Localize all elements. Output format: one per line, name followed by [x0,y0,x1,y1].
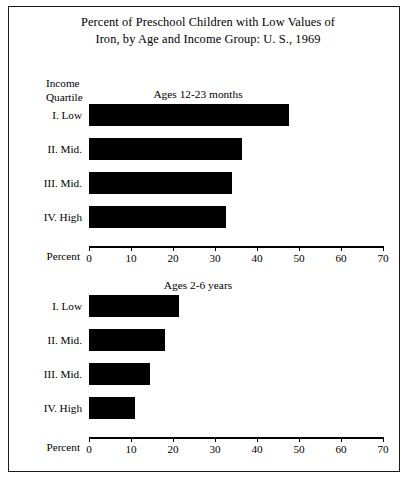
x-axis-tick-label: 50 [284,443,314,455]
x-axis-tick-label: 30 [200,252,230,264]
x-axis-tick [257,437,258,442]
bar [89,172,232,194]
x-axis-tick [383,437,384,442]
bar-row: I. Low [0,295,392,317]
bar [89,206,226,228]
bar-row: IV. High [0,206,392,228]
x-axis-tick-label: 40 [242,252,272,264]
bar [89,363,150,385]
chart-subtitle: Ages 12-23 months [88,88,308,100]
income-quartile-header-line-1: Income [46,76,83,90]
x-axis-title: Percent [0,441,80,453]
x-axis-line: 010203040506070 [89,437,383,439]
x-axis-tick-label: 70 [368,252,398,264]
x-axis-tick [131,437,132,442]
x-axis-tick [341,246,342,251]
x-axis-tick [383,246,384,251]
x-axis-tick [215,246,216,251]
figure-title: Percent of Preschool Children with Low V… [0,14,416,48]
bar-row: I. Low [0,104,392,126]
x-axis-tick [131,246,132,251]
bar-category-label: III. Mid. [0,368,82,380]
x-axis-tick-label: 70 [368,443,398,455]
bar [89,329,165,351]
x-axis-tick-label: 40 [242,443,272,455]
x-axis-tick-label: 20 [158,252,188,264]
chart-subtitle: Ages 2-6 years [88,279,308,291]
x-axis-tick-label: 30 [200,443,230,455]
x-axis-tick [299,437,300,442]
x-axis-tick-label: 20 [158,443,188,455]
bar-category-label: III. Mid. [0,177,82,189]
x-axis-tick-label: 50 [284,252,314,264]
bar [89,295,179,317]
bar-category-label: IV. High [0,402,82,414]
bar-row: II. Mid. [0,138,392,160]
x-axis-tick-label: 60 [326,443,356,455]
x-axis-title: Percent [0,250,80,262]
bar [89,104,289,126]
x-axis-tick [89,246,90,251]
x-axis-tick [173,246,174,251]
bar-category-label: I. Low [0,109,82,121]
x-axis-tick [257,246,258,251]
x-axis-tick [215,437,216,442]
x-axis-tick-label: 10 [116,252,146,264]
bar-category-label: IV. High [0,211,82,223]
x-axis-tick-label: 60 [326,252,356,264]
bar-category-label: I. Low [0,300,82,312]
bar-category-label: II. Mid. [0,143,82,155]
figure-title-line-2: Iron, by Age and Income Group: U. S., 19… [0,31,416,48]
bar-row: III. Mid. [0,363,392,385]
x-axis-line: 010203040506070 [89,246,383,248]
figure-title-line-1: Percent of Preschool Children with Low V… [0,14,416,31]
bar-row: IV. High [0,397,392,419]
bar-row: III. Mid. [0,172,392,194]
x-axis-tick [299,246,300,251]
bar [89,138,242,160]
plot-area: I. Low II. Mid. III. Mid. IV. High 01020… [0,295,392,453]
income-quartile-header: Income Quartile [46,76,83,104]
income-quartile-header-line-2: Quartile [46,90,83,104]
x-axis-tick [173,437,174,442]
x-axis-tick [341,437,342,442]
bar-category-label: II. Mid. [0,334,82,346]
x-axis-tick [89,437,90,442]
bar [89,397,135,419]
plot-area: I. Low II. Mid. III. Mid. IV. High 01020… [0,104,392,262]
x-axis-tick-label: 10 [116,443,146,455]
bar-row: II. Mid. [0,329,392,351]
